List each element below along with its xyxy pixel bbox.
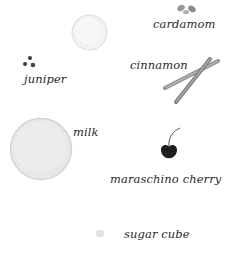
maraschino-cherry-label: maraschino cherry bbox=[110, 172, 221, 186]
sugar-cube-icon bbox=[95, 223, 105, 232]
sugar-cube-label: sugar cube bbox=[124, 227, 190, 241]
milk-disc-icon bbox=[9, 117, 73, 181]
cinnamon-sticks-icon bbox=[160, 56, 222, 106]
ice-disc-icon bbox=[71, 14, 108, 51]
cardamom-label: cardamom bbox=[153, 17, 216, 31]
milk-label: milk bbox=[73, 125, 99, 139]
juniper-label: juniper bbox=[24, 72, 66, 86]
juniper-berries-icon bbox=[22, 54, 38, 68]
cherry-icon bbox=[159, 126, 183, 160]
cardamom-pods-icon bbox=[172, 0, 202, 10]
